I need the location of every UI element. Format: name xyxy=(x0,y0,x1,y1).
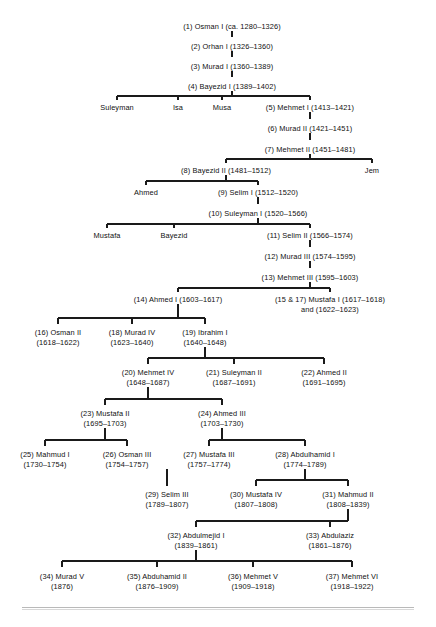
tree-node: Ahmed xyxy=(134,188,158,198)
tree-node-label: (13) Mehmet III (1595–1603) xyxy=(262,273,359,282)
tree-node: (31) Mahmud II(1808–1839) xyxy=(322,490,374,509)
tree-node: (33) Abdulaziz(1861–1876) xyxy=(306,531,354,550)
tree-node-label: (16) Osman II xyxy=(35,328,81,337)
tree-node: (27) Mustafa III(1757–1774) xyxy=(183,450,234,469)
tree-node: (4) Bayezid I (1389–1402) xyxy=(188,82,276,92)
tree-node-label: (25) Mahmud I xyxy=(20,450,69,459)
tree-node-label: (23) Mustafa II xyxy=(80,409,129,418)
tree-node: (19) Ibrahim I(1640–1648) xyxy=(182,328,227,347)
tree-node: Mustafa xyxy=(94,231,121,241)
tree-node: (14) Ahmed I (1603–1617) xyxy=(134,295,223,305)
tree-node-label: (1) Osman I (ca. 1280–1326) xyxy=(183,22,281,31)
tree-node-label: Isa xyxy=(173,103,183,112)
tree-node: Suleyman xyxy=(100,103,134,113)
tree-node-label: (33) Abdulaziz xyxy=(306,531,354,540)
tree-node-label: (10) Suleyman I (1520–1566) xyxy=(209,209,308,218)
tree-node-reign: (1695–1703) xyxy=(80,419,129,429)
tree-node-label: (26) Osman III xyxy=(103,450,152,459)
tree-node-label: (19) Ibrahim I xyxy=(182,328,227,337)
tree-node-reign: (1876–1909) xyxy=(127,582,187,592)
tree-node-reign: (1757–1774) xyxy=(183,460,234,470)
tree-node: (28) Abdulhamid I(1774–1789) xyxy=(275,450,335,469)
footer-divider-secondary xyxy=(22,609,414,610)
tree-node-label: (9) Selim I (1512–1520) xyxy=(218,188,298,197)
tree-node-label: Mustafa xyxy=(94,231,121,240)
tree-node-reign: (1918–1922) xyxy=(326,582,378,592)
tree-node: (30) Mustafa IV(1807–1808) xyxy=(230,490,282,509)
tree-node-label: Ahmed xyxy=(134,188,158,197)
tree-node: (8) Bayezid II (1481–1512) xyxy=(181,166,271,176)
tree-node: (21) Suleyman II(1687–1691) xyxy=(206,368,262,387)
tree-node-label: (29) Selim III xyxy=(145,490,188,499)
tree-node: (12) Murad III (1574–1595) xyxy=(265,252,356,262)
tree-node: (29) Selim III(1789–1807) xyxy=(145,490,188,509)
tree-node: (35) Abduhamid II(1876–1909) xyxy=(127,572,187,591)
tree-node-label: (15 & 17) Mustafa I (1617–1618) xyxy=(275,295,385,304)
tree-node: Bayezid xyxy=(161,231,188,241)
tree-node-reign: (1839–1861) xyxy=(167,541,224,551)
tree-node-reign: (1789–1807) xyxy=(145,500,188,510)
tree-node-label: Musa xyxy=(213,103,231,112)
tree-node: (11) Selim II (1566–1574) xyxy=(267,231,353,241)
tree-node: (24) Ahmed III(1703–1730) xyxy=(198,409,246,428)
tree-node-label: (22) Ahmed II xyxy=(301,368,347,377)
tree-node-reign: (1687–1691) xyxy=(206,378,262,388)
tree-node-label: (3) Murad I (1360–1389) xyxy=(191,62,273,71)
tree-node-reign: (1876) xyxy=(40,582,84,592)
tree-node-label: (12) Murad III (1574–1595) xyxy=(265,252,356,261)
tree-node: (18) Murad IV(1623–1640) xyxy=(109,328,155,347)
tree-node: (1) Osman I (ca. 1280–1326) xyxy=(183,22,281,32)
tree-node-label: Bayezid xyxy=(161,231,188,240)
tree-node-reign: (1861–1876) xyxy=(306,541,354,551)
tree-node-label: (30) Mustafa IV xyxy=(230,490,282,499)
tree-node-reign: (1754–1757) xyxy=(103,460,152,470)
tree-node: (37) Mehmet VI(1918–1922) xyxy=(326,572,378,591)
tree-node-label: (14) Ahmed I (1603–1617) xyxy=(134,295,223,304)
tree-node-label: Jem xyxy=(365,166,379,175)
tree-node-label: (34) Murad V xyxy=(40,572,84,581)
tree-node-reign: (1640–1648) xyxy=(182,338,227,348)
tree-node-label: (8) Bayezid II (1481–1512) xyxy=(181,166,271,175)
tree-node: (25) Mahmud I(1730–1754) xyxy=(20,450,69,469)
tree-node: (15 & 17) Mustafa I (1617–1618)and (1622… xyxy=(275,295,385,314)
tree-node-label: (36) Mehmet V xyxy=(228,572,278,581)
tree-node-reign: (1909–1918) xyxy=(228,582,278,592)
tree-node-label: (20) Mehmet IV xyxy=(122,368,174,377)
tree-node: (36) Mehmet V(1909–1918) xyxy=(228,572,278,591)
tree-node-label: (6) Murad II (1421–1451) xyxy=(268,124,353,133)
tree-node-label: (21) Suleyman II xyxy=(206,368,262,377)
tree-node-label: (27) Mustafa III xyxy=(183,450,234,459)
tree-node: (16) Osman II(1618–1622) xyxy=(35,328,81,347)
genealogy-diagram-page: (1) Osman I (ca. 1280–1326)(2) Orhan I (… xyxy=(0,0,436,627)
tree-node: (5) Mehmet I (1413–1421) xyxy=(266,103,354,113)
tree-node: (22) Ahmed II(1691–1695) xyxy=(301,368,347,387)
tree-node-reign: (1774–1789) xyxy=(275,460,335,470)
tree-node-label: (4) Bayezid I (1389–1402) xyxy=(188,82,276,91)
tree-node-label: (35) Abduhamid II xyxy=(127,572,187,581)
tree-node: (10) Suleyman I (1520–1566) xyxy=(209,209,308,219)
tree-node-label: (7) Mehmet II (1451–1481) xyxy=(265,145,355,154)
tree-node: (23) Mustafa II(1695–1703) xyxy=(80,409,129,428)
tree-node: (13) Mehmet III (1595–1603) xyxy=(262,273,359,283)
tree-node-reign: (1807–1808) xyxy=(230,500,282,510)
tree-node: (20) Mehmet IV(1648–1687) xyxy=(122,368,174,387)
tree-node: (6) Murad II (1421–1451) xyxy=(268,124,353,134)
tree-node-reign: (1618–1622) xyxy=(35,338,81,348)
tree-node-label: (37) Mehmet VI xyxy=(326,572,378,581)
tree-node-label: Suleyman xyxy=(100,103,134,112)
tree-node-reign: (1691–1695) xyxy=(301,378,347,388)
tree-node-reign: and (1622–1623) xyxy=(275,305,385,315)
tree-node: (9) Selim I (1512–1520) xyxy=(218,188,298,198)
tree-node: Musa xyxy=(213,103,231,113)
tree-node: (26) Osman III(1754–1757) xyxy=(103,450,152,469)
tree-node: (2) Orhan I (1326–1360) xyxy=(191,42,273,52)
tree-node-reign: (1730–1754) xyxy=(20,460,69,470)
tree-node: Isa xyxy=(173,103,183,113)
tree-node-label: (5) Mehmet I (1413–1421) xyxy=(266,103,354,112)
tree-node-label: (31) Mahmud II xyxy=(322,490,374,499)
tree-node-reign: (1703–1730) xyxy=(198,419,246,429)
tree-node-label: (24) Ahmed III xyxy=(198,409,246,418)
tree-node-label: (18) Murad IV xyxy=(109,328,155,337)
tree-node-label: (28) Abdulhamid I xyxy=(275,450,335,459)
tree-node-reign: (1808–1839) xyxy=(322,500,374,510)
